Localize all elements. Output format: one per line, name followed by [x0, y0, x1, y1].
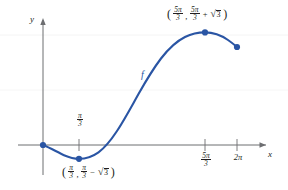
plus-operator: +	[202, 10, 209, 19]
minus-operator: −	[89, 168, 96, 177]
point-local-maximum	[202, 29, 208, 35]
comma-separator: ,	[185, 12, 188, 21]
fraction-numerator: π	[77, 112, 83, 120]
radicand: 3	[104, 168, 109, 177]
y-axis-label: y	[30, 15, 34, 24]
fraction-denominator: 3	[77, 119, 83, 128]
tick-label-five-pi-over-3: 5π 3	[196, 152, 216, 169]
radicand: 3	[216, 10, 221, 19]
square-root-expression: √3	[98, 167, 109, 177]
fraction-numerator: 5π	[201, 152, 211, 160]
point-local-minimum	[76, 156, 82, 162]
max-x-fraction: 5π 3	[173, 6, 183, 23]
fraction-denominator: 3	[68, 171, 74, 180]
x-axis-label: x	[268, 150, 272, 159]
plot-canvas	[0, 0, 288, 190]
math-graph-figure: y x f π 3 5π 3 2π ( 5π 3 , 5π 3 + √3	[0, 0, 288, 190]
min-x-fraction: π 3	[68, 164, 74, 181]
y-axis-arrowhead	[40, 18, 45, 25]
close-paren: )	[223, 8, 227, 20]
fraction-pi-over-3: π 3	[77, 112, 83, 129]
label-max-point: ( 5π 3 , 5π 3 + √3 )	[167, 6, 227, 23]
close-paren: )	[111, 166, 115, 178]
fraction-five-pi-over-3: 5π 3	[201, 152, 211, 169]
fraction-denominator: 3	[81, 171, 87, 180]
fraction-numerator: π	[81, 164, 87, 172]
max-y-fraction: 5π 3	[190, 6, 200, 23]
label-min-point: ( π 3 , π 3 − √3 )	[62, 164, 115, 181]
curve-label-f: f	[141, 70, 144, 80]
function-curve	[43, 32, 237, 158]
fraction-denominator: 3	[173, 13, 183, 22]
fraction-denominator: 3	[190, 13, 200, 22]
fraction-numerator: 5π	[173, 6, 183, 14]
comma-separator: ,	[76, 170, 79, 179]
min-y-fraction: π 3	[81, 164, 87, 181]
tick-label-two-pi: 2π	[229, 153, 247, 162]
fraction-numerator: π	[68, 164, 74, 172]
fraction-denominator: 3	[201, 159, 211, 168]
x-axis-arrowhead	[260, 142, 267, 147]
point-origin	[40, 142, 46, 148]
tick-label-pi-over-3: π 3	[72, 112, 88, 129]
square-root-expression: √3	[211, 9, 222, 19]
point-endpoint	[234, 44, 240, 50]
open-paren: (	[167, 8, 171, 20]
open-paren: (	[62, 166, 66, 178]
fraction-numerator: 5π	[190, 6, 200, 14]
